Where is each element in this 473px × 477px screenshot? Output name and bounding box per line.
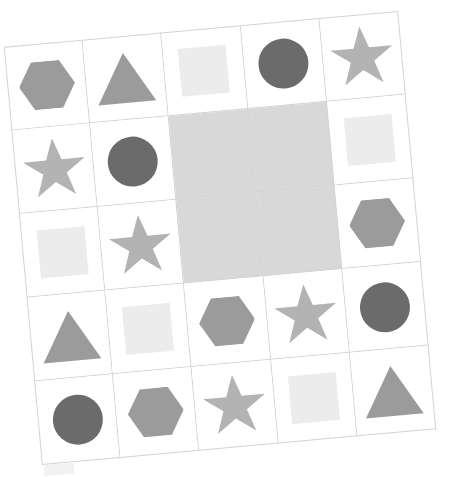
triangle-icon [361, 363, 423, 418]
grid-cell-r3c4-masked[interactable] [256, 185, 342, 276]
circle-icon [106, 134, 160, 188]
grid-cell-r2c1[interactable] [11, 123, 97, 214]
hexagon-icon [347, 196, 407, 251]
circle-icon [358, 280, 412, 334]
hexagon-icon [17, 58, 77, 113]
star-icon [272, 281, 339, 346]
puzzle-stage [0, 0, 473, 477]
grid-cell-r4c4[interactable] [263, 269, 349, 360]
square-icon [36, 226, 88, 278]
grid-cell-r2c3-masked[interactable] [169, 109, 255, 200]
grid-cell-r4c2[interactable] [105, 283, 191, 374]
grid-cell-r1c5[interactable] [319, 11, 405, 102]
grid-cell-r1c3[interactable] [162, 25, 248, 116]
grid-cell-r5c1[interactable] [34, 374, 120, 465]
square-icon [122, 302, 174, 354]
star-icon [328, 24, 395, 89]
star-icon [201, 372, 268, 437]
grid-cell-r3c2[interactable] [98, 200, 184, 291]
ghost-square-fragment [44, 463, 75, 477]
circle-icon [50, 392, 104, 446]
grid-cell-r2c2[interactable] [90, 116, 176, 207]
grid-cell-r5c4[interactable] [271, 353, 357, 444]
grid-cell-r3c3-masked[interactable] [177, 193, 263, 284]
grid-cell-r3c1[interactable] [19, 207, 105, 298]
square-icon [287, 372, 339, 424]
grid-cell-r5c5[interactable] [350, 346, 436, 437]
grid-cell-r2c4-masked[interactable] [248, 102, 334, 193]
star-icon [21, 136, 88, 201]
grid-cell-r1c1[interactable] [4, 40, 90, 131]
grid-cell-r1c2[interactable] [83, 32, 169, 123]
square-icon [344, 113, 396, 165]
triangle-icon [39, 308, 101, 363]
grid-cell-r1c4[interactable] [240, 18, 326, 109]
grid-cell-r5c2[interactable] [113, 367, 199, 458]
grid-cell-r3c5[interactable] [335, 178, 421, 269]
grid-cell-r2c5[interactable] [327, 95, 413, 186]
circle-icon [256, 36, 310, 90]
grid-cell-r4c1[interactable] [27, 291, 113, 382]
square-icon [178, 45, 230, 97]
grid-cell-r4c3[interactable] [184, 276, 270, 367]
triangle-icon [94, 50, 156, 105]
hexagon-icon [126, 385, 186, 440]
grid-cell-r4c5[interactable] [342, 262, 428, 353]
grid-rotor [4, 11, 436, 465]
hexagon-icon [197, 294, 257, 349]
shape-grid [4, 11, 436, 465]
star-icon [107, 212, 174, 277]
grid-cell-r5c3[interactable] [192, 360, 278, 451]
